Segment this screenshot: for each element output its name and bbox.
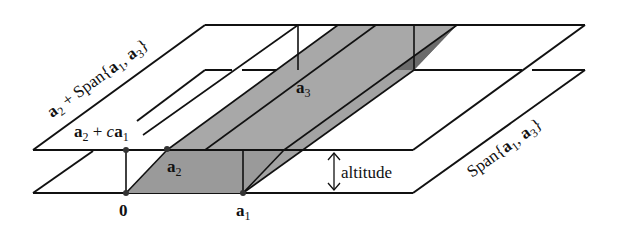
span-parallelepiped-diagram: altitude 0 a1 a2 a3 a2 + ca1 a2 + Span{a… <box>0 0 621 229</box>
diagram-svg: altitude 0 a1 a2 a3 a2 + ca1 a2 + Span{a… <box>0 0 621 229</box>
point-origin <box>123 190 129 196</box>
point-a2 <box>164 146 170 152</box>
origin-label: 0 <box>119 201 128 220</box>
altitude-label: altitude <box>341 163 392 182</box>
a1-label: a1 <box>236 201 251 223</box>
line-label: a2 + ca1 <box>74 122 129 144</box>
altitude-arrow-icon <box>328 153 340 190</box>
front-face <box>126 150 284 193</box>
point-a1 <box>240 190 246 196</box>
point-above-origin <box>123 147 129 153</box>
